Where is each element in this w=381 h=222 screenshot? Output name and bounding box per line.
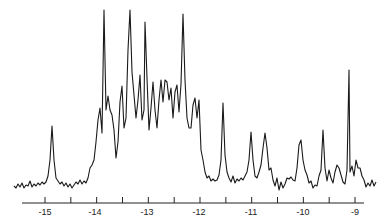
tick-label: -12 — [192, 207, 205, 217]
x-axis-ticks — [45, 197, 355, 203]
tick-label: -10 — [296, 207, 309, 217]
tick-label: -15 — [38, 207, 51, 217]
spectrum-chart: -15 -14 -13 -12 -11 -10 -9 — [0, 0, 381, 222]
tick-label: -14 — [88, 207, 101, 217]
tick-label: -11 — [245, 207, 257, 217]
spectrum-trace — [14, 10, 376, 190]
tick-label: -9 — [351, 207, 359, 217]
x-axis-tick-labels: -15 -14 -13 -12 -11 -10 -9 — [38, 207, 359, 217]
tick-label: -13 — [140, 207, 153, 217]
